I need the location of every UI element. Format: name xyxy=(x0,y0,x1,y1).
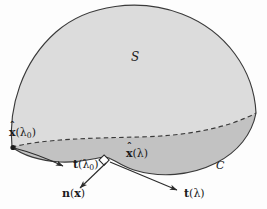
x-hat-symbol-2: ˆx xyxy=(126,148,133,159)
hat-accent-icon: ˆ xyxy=(10,121,15,131)
t-lambda0-close: ) xyxy=(94,158,98,171)
surface-upper-region xyxy=(11,5,256,147)
normal-vector-label: n(x) xyxy=(62,188,85,199)
hat-accent-icon-2: ˆ xyxy=(127,142,132,152)
tangent-lambda0-label: t(λ0) xyxy=(73,159,99,171)
curve-label: C xyxy=(216,160,224,171)
n-close: ) xyxy=(81,187,85,200)
surface-label: S xyxy=(131,51,139,63)
surface-boundary-diagram: S C ˆx(λ0) ˆx(λ) t(λ0) t(λ) n(x) xyxy=(0,0,267,209)
diagram-canvas xyxy=(0,0,267,209)
lambda0-close: ) xyxy=(32,126,36,139)
n-base: n xyxy=(62,187,70,200)
t-lambda-arg: (λ) xyxy=(189,187,205,200)
x-hat-symbol: ˆx xyxy=(9,127,16,138)
t-lambda0-open: (λ xyxy=(78,158,89,171)
point-lambda0-label: ˆx(λ0) xyxy=(9,127,36,139)
lambda0-open: (λ xyxy=(16,126,27,139)
point-lambda-label: ˆx(λ) xyxy=(126,148,148,159)
endpoint-dot xyxy=(10,145,15,150)
tangent-lambda-label: t(λ) xyxy=(184,188,205,199)
lambda-arg: (λ) xyxy=(133,147,149,160)
